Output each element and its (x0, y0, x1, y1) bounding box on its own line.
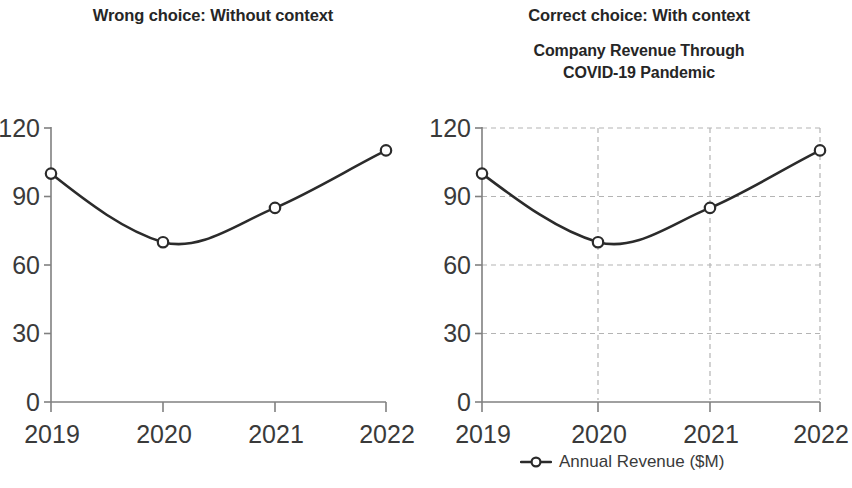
x-tick-label-2022: 2022 (359, 420, 415, 448)
data-point-2021 (270, 203, 280, 213)
chart-without-context: 0 30 60 90 120 2019 2020 2021 2022 (0, 0, 426, 488)
revenue-curve (51, 150, 386, 244)
data-point-2019 (46, 168, 56, 178)
data-point-2021 (705, 203, 715, 213)
y-tick-label-90: 90 (443, 182, 471, 210)
data-point-2020 (593, 237, 603, 247)
line-circle-marker-icon (520, 455, 552, 469)
x-tick-label-2019: 2019 (24, 420, 80, 448)
y-tick-label-0: 0 (26, 388, 40, 416)
panel-correct-choice: Correct choice: With context Company Rev… (426, 0, 852, 488)
revenue-curve (482, 150, 820, 244)
chart-legend: Annual Revenue ($M) (520, 452, 724, 472)
data-point-2022 (381, 145, 391, 155)
y-tick-label-120: 120 (429, 114, 471, 142)
panel-wrong-choice: Wrong choice: Without context 0 30 60 90… (0, 0, 426, 488)
legend-label-annual-revenue: Annual Revenue ($M) (559, 452, 724, 472)
x-tick-label-2022: 2022 (793, 420, 849, 448)
x-tick-label-2019: 2019 (455, 420, 511, 448)
y-tick-label-90: 90 (12, 182, 40, 210)
data-point-2020 (158, 237, 168, 247)
y-tick-label-30: 30 (12, 319, 40, 347)
x-tick-label-2021: 2021 (248, 420, 304, 448)
y-tick-label-60: 60 (443, 251, 471, 279)
chart-with-context: 0 30 60 90 120 2019 2020 2021 2022 (426, 0, 852, 488)
y-tick-label-120: 120 (0, 114, 40, 142)
x-tick-label-2020: 2020 (571, 420, 627, 448)
x-tick-label-2020: 2020 (136, 420, 192, 448)
x-tick-label-2021: 2021 (683, 420, 739, 448)
y-tick-label-30: 30 (443, 319, 471, 347)
y-tick-label-0: 0 (457, 388, 471, 416)
data-point-2019 (477, 168, 487, 178)
data-point-2022 (815, 145, 825, 155)
y-tick-label-60: 60 (12, 251, 40, 279)
